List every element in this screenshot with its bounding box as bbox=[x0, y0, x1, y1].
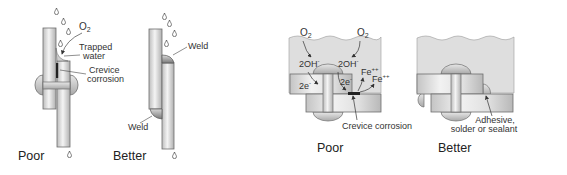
rivet-shank bbox=[451, 74, 461, 112]
water-drop-icon bbox=[67, 28, 71, 35]
caption-better-left: Better bbox=[113, 149, 146, 163]
caption-better-right: Better bbox=[438, 141, 471, 155]
water-drop-icon bbox=[55, 8, 59, 15]
water-drop-icon bbox=[173, 30, 177, 37]
water-drop-icon bbox=[168, 20, 172, 27]
caption-poor-left: Poor bbox=[18, 149, 44, 163]
crevice-corrosion-diagram: O2 Trapped water Crevice corrosion Poor … bbox=[0, 0, 567, 175]
caption-poor-right: Poor bbox=[317, 141, 343, 155]
plate-lower bbox=[57, 61, 70, 147]
iron-ion-label-2: Fe++ bbox=[372, 73, 390, 84]
trapped-water-label-2: water bbox=[82, 51, 105, 61]
rivet-head-left bbox=[35, 75, 43, 95]
rivet-head-bottom bbox=[313, 112, 343, 121]
rivet-head-right bbox=[70, 75, 78, 95]
right-better-illustration: Adhesive, solder or sealant Better bbox=[417, 36, 518, 155]
water-drop-icon bbox=[163, 13, 167, 20]
plate-lower bbox=[306, 94, 381, 112]
weld-label-top: Weld bbox=[188, 41, 208, 51]
plate-upper bbox=[149, 29, 162, 109]
hydroxide-label-left: 2OH- bbox=[299, 58, 320, 69]
water-drop-icon bbox=[173, 152, 177, 159]
crevice-corrosion-mark bbox=[56, 63, 58, 78]
water-drop-icon bbox=[68, 151, 72, 158]
weld-top bbox=[162, 55, 174, 63]
crevice-label-2: corrosion bbox=[87, 74, 124, 84]
rivet-shank bbox=[43, 82, 70, 89]
right-poor-illustration: O2 O2 2OH- 2OH- 2e- 2e- Fe++ Fe++ Crevic… bbox=[289, 27, 412, 155]
weld-bottom bbox=[150, 109, 162, 119]
rivet-shank bbox=[323, 74, 333, 112]
water-drop-icon bbox=[59, 40, 63, 47]
oxygen-label: O2 bbox=[79, 21, 91, 33]
weld-label-bottom: Weld bbox=[128, 122, 148, 132]
water-drop-icon bbox=[62, 18, 66, 25]
left-better-illustration: Weld Weld Better bbox=[113, 13, 208, 163]
plate-lower bbox=[431, 94, 513, 112]
sealant-bead-left bbox=[418, 93, 424, 107]
trapped-water bbox=[56, 48, 68, 61]
plate-upper bbox=[417, 74, 483, 94]
rivet-head-bottom bbox=[441, 112, 471, 121]
crevice-corrosion-label: Crevice corrosion bbox=[342, 121, 412, 131]
water-drop-icon bbox=[165, 40, 169, 47]
plate-lower bbox=[162, 63, 174, 149]
plate-upper bbox=[43, 28, 56, 109]
oxygen-label-right: O2 bbox=[357, 27, 369, 39]
sealant-label-2: solder or sealant bbox=[451, 124, 518, 134]
crevice-corrosion-mark bbox=[348, 92, 360, 95]
left-poor-illustration: O2 Trapped water Crevice corrosion Poor bbox=[18, 8, 124, 163]
hydroxide-label-right: 2OH- bbox=[338, 58, 359, 69]
oxygen-label-left: O2 bbox=[300, 27, 312, 39]
